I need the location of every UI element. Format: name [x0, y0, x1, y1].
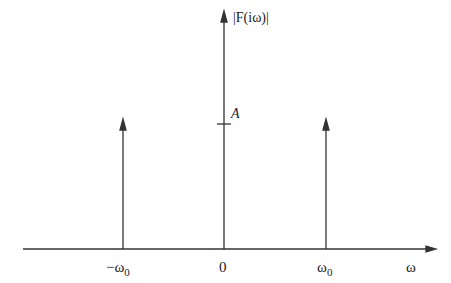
impulse-neg-arrow-icon: [120, 119, 126, 130]
x-axis-label: ω: [406, 259, 416, 275]
impulse-pos-arrow-icon: [323, 119, 329, 130]
impulse-center-arrow-icon: [221, 11, 227, 22]
y-axis-label: |F(iω)|: [233, 10, 269, 26]
x-axis-arrow-icon: [426, 246, 436, 252]
amplitude-label: A: [230, 106, 240, 121]
tick-zero: 0: [219, 259, 227, 275]
tick-neg-omega0: −ω0: [106, 259, 130, 278]
tick-pos-omega0: ω0: [317, 259, 333, 278]
spectrum-diagram: |F(iω)| A −ω0 0 ω0 ω: [0, 0, 451, 283]
